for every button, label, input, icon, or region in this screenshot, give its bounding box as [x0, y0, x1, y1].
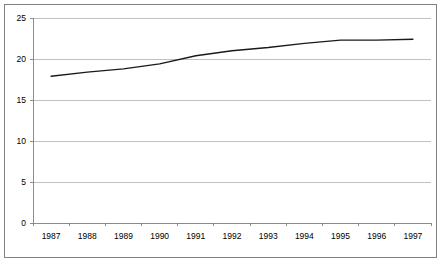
x-axis-tick-label: 1994: [295, 231, 314, 241]
x-axis-tick-label: 1997: [403, 231, 422, 241]
x-axis-tick-label: 1990: [150, 231, 169, 241]
y-axis-tick-label: 10: [17, 136, 27, 146]
x-axis-tick-label: 1992: [223, 231, 242, 241]
line-chart-svg: 0510152025 19871988198919901991199219931…: [5, 5, 438, 259]
x-axis-tick-label: 1993: [259, 231, 278, 241]
y-axis-tick-label: 20: [17, 54, 27, 64]
x-axis-tick-label: 1995: [331, 231, 350, 241]
chart-frame: 0510152025 19871988198919901991199219931…: [4, 4, 437, 258]
chart-plot-area: 0510152025 19871988198919901991199219931…: [5, 5, 438, 259]
x-axis-tick-label: 1989: [114, 231, 133, 241]
x-axis-tick-label: 1987: [42, 231, 61, 241]
x-axis-tick-label: 1996: [367, 231, 386, 241]
y-axis-tick-label: 25: [17, 13, 27, 23]
y-axis-tick-label: 0: [21, 218, 26, 228]
y-axis-tick-label: 5: [21, 177, 26, 187]
y-axis-tick-label: 15: [17, 95, 27, 105]
y-axis-tick-labels: 0510152025: [17, 13, 27, 228]
x-axis-tick-label: 1991: [186, 231, 205, 241]
x-axis-tick-label: 1988: [78, 231, 97, 241]
x-axis-tick-labels: 1987198819891990199119921993199419951996…: [42, 231, 423, 241]
plot-background: [33, 18, 431, 223]
